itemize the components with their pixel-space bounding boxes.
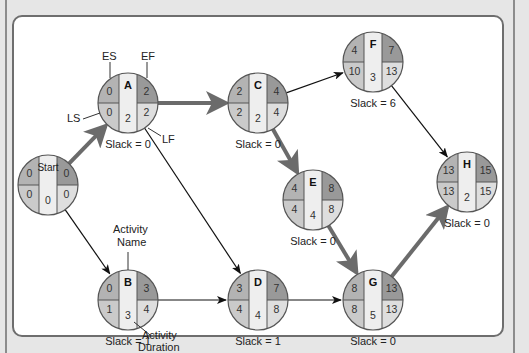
es-value: 0 (27, 167, 33, 179)
lf-value: 0 (64, 188, 70, 200)
edge-start-a (69, 126, 106, 164)
ls-label: LS (67, 112, 80, 124)
ls-value: 1 (107, 303, 113, 315)
activity-name: G (369, 276, 378, 288)
activity-name: F (370, 38, 377, 50)
lf-value: 13 (386, 65, 398, 77)
edge-f-h (391, 86, 447, 157)
edge-start-b (65, 210, 110, 274)
ef-value: 3 (144, 282, 150, 294)
duration-value: 2 (464, 191, 470, 203)
ef-label: EF (141, 50, 155, 62)
nodes-layer: Start00000A02022Slack = 0B03143Slack = 1… (18, 32, 497, 347)
ls-value: 2 (237, 106, 243, 118)
activity-name-label-1: Activity (113, 223, 148, 235)
es-value: 4 (352, 44, 358, 56)
edge-a-d (145, 128, 241, 273)
lf-value: 15 (480, 185, 492, 197)
activity-name: D (254, 276, 262, 288)
node-start: Start00000 (18, 155, 78, 215)
edge-c-e (273, 129, 297, 172)
ef-value: 2 (144, 85, 150, 97)
ls-value: 4 (292, 203, 298, 215)
duration-value: 5 (370, 309, 376, 321)
ef-value: 15 (480, 164, 492, 176)
duration-value: 3 (125, 309, 131, 321)
es-label: ES (102, 50, 117, 62)
lf-value: 8 (329, 203, 335, 215)
activity-name: B (124, 276, 132, 288)
es-value: 0 (107, 282, 113, 294)
ls-value: 13 (443, 185, 455, 197)
network-diagram: Start00000A02022Slack = 0B03143Slack = 1… (0, 0, 529, 353)
node-f: F4710133Slack = 6 (343, 32, 403, 109)
node-d: D37484Slack = 1 (228, 270, 288, 347)
activity-name: E (309, 176, 316, 188)
edge-e-g (328, 226, 356, 273)
node-e: E48484Slack = 0 (283, 170, 343, 247)
slack-label: Slack = 0 (105, 138, 151, 150)
slack-label: Slack = 0 (290, 235, 336, 247)
ef-value: 8 (329, 182, 335, 194)
ef-value: 7 (274, 282, 280, 294)
activity-name: C (254, 79, 262, 91)
lf-label: LF (162, 133, 175, 145)
activity-name: A (124, 79, 132, 91)
es-value: 4 (292, 182, 298, 194)
edge-g-h (392, 207, 447, 277)
duration-value: 4 (310, 209, 316, 221)
node-a: A02022Slack = 0 (98, 73, 158, 150)
ef-value: 7 (389, 44, 395, 56)
node-c: C24242Slack = 0 (228, 73, 288, 150)
es-value: 8 (352, 282, 358, 294)
activity-name: Start (37, 162, 58, 173)
duration-value: 3 (370, 71, 376, 83)
ef-value: 4 (274, 85, 280, 97)
ls-value: 8 (352, 303, 358, 315)
activity-duration-label-2: Duration (138, 341, 180, 353)
edge-c-f (286, 73, 343, 93)
lf-value: 4 (144, 303, 150, 315)
ls-value: 4 (237, 303, 243, 315)
lf-value: 4 (274, 106, 280, 118)
slack-label: Slack = 0 (350, 335, 396, 347)
lf-value: 13 (386, 303, 398, 315)
slack-label: Slack = 1 (235, 335, 281, 347)
lf-value: 8 (274, 303, 280, 315)
es-value: 2 (237, 85, 243, 97)
lf-value: 2 (144, 106, 150, 118)
es-value: 13 (443, 164, 455, 176)
ef-value: 0 (64, 167, 70, 179)
duration-value: 0 (45, 194, 51, 206)
node-h: H131513152Slack = 0 (437, 152, 497, 229)
duration-value: 2 (125, 112, 131, 124)
activity-duration-label-1: Activity (142, 329, 177, 341)
slack-label: Slack = 6 (350, 97, 396, 109)
activity-name-label-2: Name (117, 236, 146, 248)
slack-label: Slack = 0 (444, 217, 490, 229)
ls-value: 0 (27, 188, 33, 200)
duration-value: 2 (255, 112, 261, 124)
node-g: G8138135Slack = 0 (343, 270, 403, 347)
es-value: 0 (107, 85, 113, 97)
ls-value: 10 (349, 65, 361, 77)
activity-name: H (463, 158, 471, 170)
duration-value: 4 (255, 309, 261, 321)
ef-value: 13 (386, 282, 398, 294)
slack-label: Slack = 0 (235, 138, 281, 150)
ls-value: 0 (107, 106, 113, 118)
es-value: 3 (237, 282, 243, 294)
